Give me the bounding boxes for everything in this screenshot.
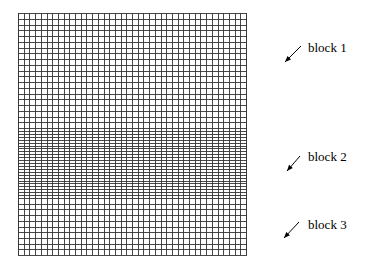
block-1-label: block 1 bbox=[308, 40, 347, 55]
block-3-label: block 3 bbox=[308, 217, 347, 232]
mesh-grid bbox=[18, 13, 247, 256]
mesh-diagram: block 1 block 2 block 3 bbox=[0, 0, 365, 264]
block-1: block 1 bbox=[285, 40, 347, 62]
block-2-label: block 2 bbox=[308, 149, 347, 164]
block-3: block 3 bbox=[284, 217, 347, 238]
block-2: block 2 bbox=[287, 149, 347, 171]
